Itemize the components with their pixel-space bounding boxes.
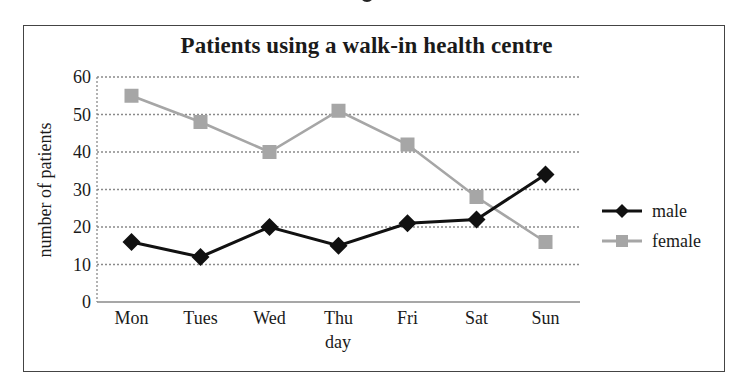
y-tick-label: 20: [73, 217, 91, 237]
data-point-male: [192, 248, 210, 266]
y-tick-label: 10: [73, 255, 91, 275]
x-tick-label: Mon: [114, 308, 148, 328]
y-tick-label: 40: [73, 142, 91, 162]
data-point-female: [194, 115, 208, 129]
x-tick-label: Fri: [397, 308, 418, 328]
y-tick-label: 60: [73, 67, 91, 87]
data-point-female: [539, 235, 553, 249]
y-tick-label: 0: [82, 292, 91, 312]
data-point-male: [399, 214, 417, 232]
data-point-male: [261, 218, 279, 236]
legend-label-female: female: [652, 231, 701, 252]
data-point-male: [468, 211, 486, 229]
data-point-female: [470, 190, 484, 204]
data-point-female: [332, 104, 346, 118]
data-point-male: [537, 166, 555, 184]
x-tick-label: Thu: [324, 308, 353, 328]
data-point-male: [123, 233, 141, 251]
data-point-male: [330, 237, 348, 255]
legend-label-male: male: [652, 201, 687, 222]
data-point-female: [263, 145, 277, 159]
y-tick-label: 50: [73, 105, 91, 125]
diamond-marker-icon: [600, 203, 644, 219]
legend-item-female: female: [600, 226, 701, 256]
plot-area: 0102030405060MonTuesWedThuFriSatSun: [0, 0, 748, 383]
y-tick-label: 30: [73, 180, 91, 200]
x-tick-label: Sat: [465, 308, 488, 328]
legend-item-male: male: [600, 196, 701, 226]
square-marker-icon: [600, 233, 644, 249]
legend: male female: [600, 196, 701, 256]
data-point-female: [125, 89, 139, 103]
data-point-female: [401, 138, 415, 152]
x-tick-label: Wed: [253, 308, 286, 328]
x-tick-label: Sun: [531, 308, 559, 328]
x-tick-label: Tues: [183, 308, 217, 328]
